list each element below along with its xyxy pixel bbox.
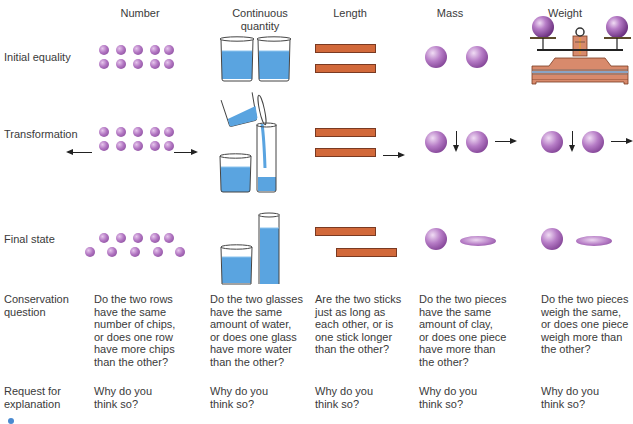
question-line: than the other? — [94, 356, 175, 369]
explanation-line: Why do you — [94, 385, 152, 398]
clay-flattened-icon — [576, 236, 612, 246]
balance-scale-illustration — [527, 14, 633, 86]
question-length: Are the two sticks just as long as each … — [315, 293, 401, 356]
chip-icon — [133, 127, 143, 137]
arrow-right-icon — [174, 152, 196, 153]
clay-ball-icon — [541, 131, 563, 153]
question-line: Do the two glasses — [210, 293, 303, 306]
row-label-conservation-question: Conservation question — [4, 293, 69, 319]
chip-icon — [150, 141, 160, 151]
explanation-line: think so? — [94, 398, 152, 411]
question-line: amount of clay, — [419, 318, 506, 331]
question-line: or does one piece — [419, 331, 506, 344]
arrow-down-icon — [572, 131, 573, 150]
beakers-initial — [220, 36, 292, 82]
stick-icon — [315, 128, 376, 137]
chip-icon — [116, 45, 126, 55]
question-line: have the same — [94, 306, 175, 319]
chip-icon — [164, 141, 174, 151]
question-line: the other? — [419, 356, 506, 369]
stick-icon — [315, 44, 376, 53]
chip-icon — [116, 59, 126, 69]
chip-icon — [116, 233, 126, 243]
arrow-right-icon — [495, 141, 515, 142]
arrow-down-icon — [456, 131, 457, 150]
beaker-icon — [221, 245, 252, 284]
clay-ball-icon — [582, 131, 604, 153]
column-header-continuous-line2: quantity — [220, 20, 300, 33]
question-line: one stick longer — [315, 331, 401, 344]
question-line: than the other? — [315, 343, 401, 356]
question-line: have more chips — [94, 343, 175, 356]
question-line: have the same — [210, 306, 303, 319]
row-label-question-line2: question — [4, 306, 69, 319]
chip-icon — [116, 141, 126, 151]
chip-icon — [150, 45, 160, 55]
chip-icon — [133, 59, 143, 69]
stick-icon — [315, 64, 376, 73]
column-header-continuous-quantity: Continuous quantity — [220, 7, 300, 33]
question-weight: Do the two pieces weigh the same, or doe… — [541, 293, 628, 356]
row-label-request-explanation: Request for explanation — [4, 385, 61, 411]
explanation-number: Why do you think so? — [94, 385, 152, 410]
chip-icon — [164, 233, 174, 243]
clay-ball-icon — [466, 131, 488, 153]
question-line: than the other? — [210, 356, 303, 369]
question-line: each other, or is — [315, 318, 401, 331]
chip-icon — [175, 247, 185, 257]
chip-icon — [150, 233, 160, 243]
clay-ball-icon — [425, 46, 447, 68]
tall-glass-icon — [259, 213, 280, 284]
clay-ball-icon — [425, 228, 447, 250]
explanation-continuous: Why do you think so? — [210, 385, 268, 410]
question-line: the other? — [541, 343, 628, 356]
question-line: amount of water, — [210, 318, 303, 331]
question-line: Do the two rows — [94, 293, 175, 306]
column-header-continuous-line1: Continuous — [220, 7, 300, 20]
pouring-glass-illustration — [218, 88, 298, 196]
question-number: Do the two rows have the same number of … — [94, 293, 175, 369]
chip-icon — [116, 127, 126, 137]
question-line: weigh more than — [541, 331, 628, 344]
chip-icon — [164, 59, 174, 69]
explanation-line: Why do you — [210, 385, 268, 398]
question-continuous: Do the two glasses have the same amount … — [210, 293, 303, 369]
row-label-transformation: Transformation — [4, 128, 78, 141]
chip-icon — [133, 141, 143, 151]
explanation-line: think so? — [541, 398, 599, 411]
stick-icon — [315, 148, 376, 157]
question-line: number of chips, — [94, 318, 175, 331]
arrow-right-icon — [611, 141, 631, 142]
row-label-initial-equality: Initial equality — [4, 51, 71, 64]
question-line: have the same — [419, 306, 506, 319]
row-label-request-line2: explanation — [4, 398, 61, 411]
arrow-right-icon — [383, 155, 403, 156]
column-header-number: Number — [110, 7, 170, 20]
question-line: have more than — [419, 343, 506, 356]
question-line: weigh the same, — [541, 306, 628, 319]
chip-icon — [99, 233, 109, 243]
question-line: Do the two pieces — [541, 293, 628, 306]
question-line: Are the two sticks — [315, 293, 401, 306]
column-header-mass: Mass — [420, 7, 480, 20]
chip-icon — [99, 141, 109, 151]
chip-icon — [164, 127, 174, 137]
question-line: or does one glass — [210, 331, 303, 344]
row-label-question-line1: Conservation — [4, 293, 69, 306]
chip-icon — [85, 247, 95, 257]
explanation-line: Why do you — [541, 385, 599, 398]
beaker-icon — [220, 37, 254, 81]
explanation-line: think so? — [315, 398, 373, 411]
explanation-mass: Why do you think so? — [419, 385, 477, 410]
chip-icon — [150, 59, 160, 69]
question-line: or does one piece — [541, 318, 628, 331]
chip-icon — [133, 45, 143, 55]
explanation-length: Why do you think so? — [315, 385, 373, 410]
chip-icon — [153, 247, 163, 257]
explanation-line: Why do you — [315, 385, 373, 398]
stick-icon — [315, 227, 376, 236]
row-label-final-state: Final state — [4, 233, 55, 246]
chip-icon — [164, 45, 174, 55]
explanation-weight: Why do you think so? — [541, 385, 599, 410]
arrow-left-icon — [68, 152, 92, 153]
